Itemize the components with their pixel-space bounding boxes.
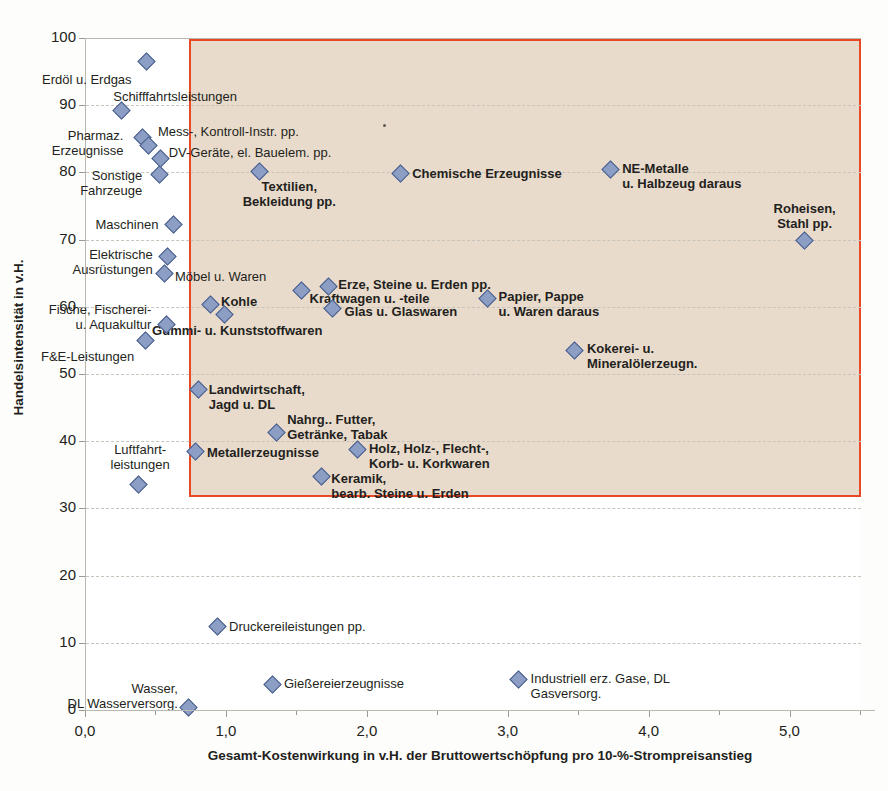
data-point-label: Roheisen,Stahl pp. [725, 201, 885, 231]
point-label-line: Maschinen [96, 217, 159, 232]
data-point-marker[interactable] [112, 101, 130, 119]
data-point-label: SonstigeFahrzeuge [80, 168, 142, 198]
point-label-line: Erzeugnisse [52, 143, 124, 158]
point-label-line: Ausrüstungen [73, 262, 153, 277]
point-label-line: Jagd u. DL [209, 397, 305, 412]
data-point-marker[interactable] [150, 165, 168, 183]
data-point-marker[interactable] [509, 671, 527, 689]
data-point-label: F&E-Leistungen [41, 349, 134, 364]
gridline-y-70 [86, 240, 861, 241]
point-label-line: Fische, Fischerei- [49, 302, 152, 317]
x-axis-line [85, 710, 875, 711]
gridline-y-20 [86, 576, 861, 577]
data-point-marker[interactable] [137, 52, 155, 70]
data-point-label: Nahrg.. Futter,Getränke, Tabak [287, 412, 387, 442]
point-label-line: Glas u. Glaswaren [345, 304, 458, 319]
gridline-y-30 [86, 508, 861, 509]
data-point-marker[interactable] [129, 475, 147, 493]
data-point-label: Erze, Steine u. Erden pp. [338, 277, 490, 292]
x-tick-mark-1,0 [226, 711, 227, 717]
point-label-line: Holz, Holz-, Flecht-, [369, 441, 490, 456]
y-tick-label-20: 20 [44, 566, 76, 583]
point-label-line: Möbel u. Waren [175, 269, 266, 284]
point-label-line: Erdöl u. Erdgas [42, 72, 132, 87]
point-label-line: Bekleidung pp. [209, 194, 369, 209]
point-label-line: DV-Geräte, el. Bauelem. pp. [169, 145, 332, 160]
point-label-line: Kokerei- u. [587, 341, 698, 356]
scatter-chart: Handelsintensität in v.H. Erdöl u. Erdga… [0, 0, 888, 791]
data-point-label: Papier, Pappeu. Waren daraus [499, 289, 600, 319]
data-point-label: Wasser,DL Wasserversorg. [68, 681, 178, 711]
x-minor-tick-5.5 [860, 711, 861, 715]
x-tick-label-4,0: 4,0 [624, 722, 674, 739]
data-point-label: Gießereierzeugnisse [284, 676, 404, 691]
y-tick-label-50: 50 [44, 364, 76, 381]
data-point-marker[interactable] [156, 264, 174, 282]
data-point-label: DV-Geräte, el. Bauelem. pp. [169, 145, 332, 160]
data-point-marker[interactable] [208, 617, 226, 635]
data-point-marker[interactable] [151, 150, 169, 168]
point-label-line: Papier, Pappe [499, 289, 600, 304]
data-point-marker[interactable] [263, 675, 281, 693]
point-label-line: Gießereierzeugnisse [284, 676, 404, 691]
point-label-line: leistungen [60, 457, 220, 472]
data-point-label: ElektrischeAusrüstungen [73, 247, 153, 277]
data-point-label: Pharmaz.Erzeugnisse [52, 128, 124, 158]
data-point-label: Gummi- u. Kunststoffwaren [152, 323, 312, 338]
data-point-label: Mess-, Kontroll-Instr. pp. [158, 124, 299, 139]
x-minor-tick-3.5 [578, 711, 579, 715]
data-point-label: Textilien,Bekleidung pp. [209, 179, 369, 209]
x-tick-label-5,0: 5,0 [765, 722, 815, 739]
data-point-label: Kokerei- u.Mineralölerzeugn. [587, 341, 698, 371]
point-label-line: Getränke, Tabak [287, 427, 387, 442]
point-label-line: Schifffahrtsleistungen [113, 89, 237, 104]
data-point-label: Metallerzeugnisse [207, 445, 319, 460]
point-label-line: F&E-Leistungen [41, 349, 134, 364]
gridline-y-10 [86, 643, 861, 644]
data-point-marker[interactable] [159, 247, 177, 265]
y-tick-label-30: 30 [44, 498, 76, 515]
x-minor-tick-1.5 [296, 711, 297, 715]
point-label-line: Roheisen, [725, 201, 885, 216]
gridline-y-100 [86, 38, 861, 39]
point-label-line: Textilien, [209, 179, 369, 194]
data-point-label: NE-Metalleu. Halbzeug daraus [622, 161, 741, 191]
point-label-line: Fahrzeuge [80, 183, 142, 198]
point-label-line: Pharmaz. [52, 128, 124, 143]
x-tick-mark-0,0 [85, 711, 86, 717]
point-label-line: Mess-, Kontroll-Instr. pp. [158, 124, 299, 139]
data-point-label: Landwirtschaft,Jagd u. DL [209, 382, 305, 412]
point-label-line: Sonstige [80, 168, 142, 183]
data-point-label: Holz, Holz-, Flecht-,Korb- u. Korkwaren [369, 441, 490, 471]
data-point-marker[interactable] [164, 216, 182, 234]
data-point-label: Luftfahrt-leistungen [60, 442, 220, 472]
x-tick-label-2,0: 2,0 [342, 722, 392, 739]
data-point-marker[interactable] [180, 698, 198, 716]
x-tick-label-0,0: 0,0 [60, 722, 110, 739]
x-tick-mark-4,0 [649, 711, 650, 717]
y-tick-label-10: 10 [44, 633, 76, 650]
point-label-line: Keramik, [331, 471, 468, 486]
point-label-line: Korb- u. Korkwaren [369, 456, 490, 471]
x-tick-label-1,0: 1,0 [201, 722, 251, 739]
x-minor-tick-2.5 [437, 711, 438, 715]
data-point-label: Schifffahrtsleistungen [113, 89, 237, 104]
point-label-line: bearb. Steine u. Erden [331, 486, 468, 501]
y-tick-label-90: 90 [44, 95, 76, 112]
y-tick-label-70: 70 [44, 230, 76, 247]
point-label-line: NE-Metalle [622, 161, 741, 176]
point-label-line: u. Halbzeug daraus [622, 176, 741, 191]
x-minor-tick-4.5 [719, 711, 720, 715]
data-point-label: Maschinen [96, 217, 159, 232]
data-point-label: Fische, Fischerei-u. Aquakultur [49, 302, 152, 332]
point-label-line: u. Waren daraus [499, 304, 600, 319]
x-minor-tick-0.5 [155, 711, 156, 715]
gridline-y-60 [86, 307, 861, 308]
data-point-label: Glas u. Glaswaren [345, 304, 458, 319]
point-label-line: Druckereileistungen pp. [229, 619, 366, 634]
point-label-line: Luftfahrt- [60, 442, 220, 457]
x-tick-mark-3,0 [508, 711, 509, 717]
data-point-label: Druckereileistungen pp. [229, 619, 366, 634]
point-label-line: Gasversorg. [531, 686, 670, 701]
gridline-y-90 [86, 105, 861, 106]
